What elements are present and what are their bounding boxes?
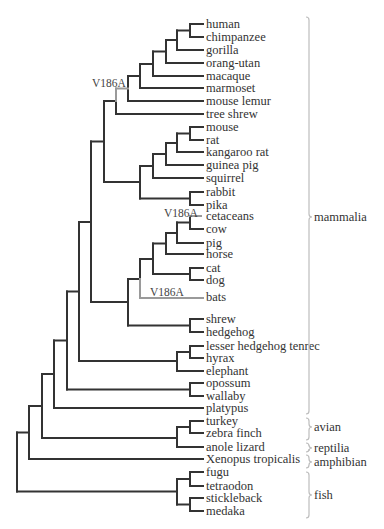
- species-label: mouse lemur: [206, 94, 272, 108]
- species-label: squirrel: [206, 171, 245, 185]
- species-label: guinea pig: [206, 158, 259, 172]
- mutation-label: V186A: [92, 77, 127, 89]
- phylogenetic-tree: humanchimpanzeegorillaorang-utanmacaquem…: [0, 0, 384, 529]
- species-label: human: [206, 17, 241, 31]
- group-label: mammalia: [314, 210, 367, 224]
- species-label: opossum: [206, 376, 251, 390]
- species-label: stickleback: [206, 491, 263, 505]
- species-label: orang-utan: [206, 56, 261, 70]
- species-label: mouse: [206, 120, 239, 134]
- species-label: gorilla: [206, 43, 239, 57]
- species-label: bats: [206, 290, 226, 304]
- species-label: fugu: [206, 465, 230, 479]
- species-label: hyrax: [206, 351, 235, 365]
- species-label: shrew: [206, 312, 236, 326]
- group-label: reptilia: [314, 441, 350, 455]
- group-label: avian: [314, 420, 342, 434]
- species-label: kangaroo rat: [206, 145, 269, 159]
- species-label: medaka: [206, 504, 245, 518]
- species-label: hedgehog: [206, 325, 255, 339]
- species-label: dog: [206, 273, 226, 287]
- species-label: cow: [206, 222, 227, 236]
- species-label: zebra finch: [206, 426, 263, 440]
- species-label: horse: [206, 247, 234, 261]
- group-label: fish: [314, 488, 334, 502]
- mutation-label: V186A: [150, 286, 185, 298]
- species-label: platypus: [206, 401, 248, 415]
- mutation-label: V186A: [164, 207, 199, 219]
- species-label: marmoset: [206, 81, 256, 95]
- species-label: cetaceans: [206, 209, 254, 223]
- species-label: rabbit: [206, 185, 236, 199]
- species-label: chimpanzee: [206, 30, 266, 44]
- group-label: amphibian: [314, 455, 368, 469]
- species-label: tree shrew: [206, 107, 258, 121]
- species-label: Xenopus tropicalis: [206, 452, 300, 466]
